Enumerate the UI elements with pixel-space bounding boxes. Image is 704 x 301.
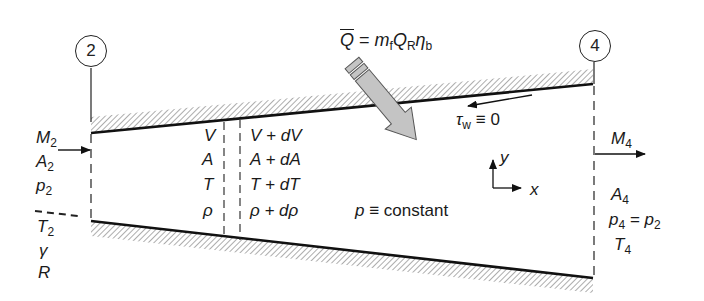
gas-constant: R — [38, 263, 50, 283]
cv-velocity: V — [204, 126, 215, 146]
inlet-props-separator — [35, 211, 78, 216]
outlet-area: A4 — [611, 185, 629, 210]
bottom-wall — [91, 221, 593, 278]
outlet-pressure: p4 = p2 — [609, 210, 661, 235]
station-2-marker: 2 — [75, 35, 107, 67]
pressure-constant-note: p ≡ constant — [355, 201, 448, 221]
inlet-mach: M2 — [36, 128, 57, 153]
station-4-label: 4 — [590, 36, 599, 56]
heat-rate-symbol: Q — [340, 30, 354, 50]
y-axis-label: y — [500, 148, 509, 168]
specific-heat-ratio: γ — [39, 241, 48, 261]
cv-area-plus: A + dA — [250, 150, 301, 170]
wall-shear-label: τw ≡ 0 — [456, 110, 500, 135]
station-2-label: 2 — [86, 41, 95, 61]
bottom-wall-hatching — [91, 221, 593, 293]
cv-velocity-plus: V + dV — [250, 126, 302, 146]
heat-addition-equation: Q = mfQRηb — [340, 30, 432, 56]
inlet-area: A2 — [36, 152, 54, 177]
cv-area: A — [202, 150, 213, 170]
cv-temperature-plus: T + dT — [250, 175, 300, 195]
cv-density-plus: ρ + dρ — [250, 201, 298, 221]
station-4-marker: 4 — [579, 30, 611, 62]
outlet-temperature: T4 — [614, 235, 631, 260]
inlet-temperature: T2 — [37, 217, 54, 242]
top-wall — [91, 84, 593, 133]
outlet-mach: M4 — [611, 129, 632, 154]
cv-temperature: T — [203, 175, 213, 195]
fuel-mass-flow-symbol: m — [375, 30, 390, 50]
inlet-pressure: p2 — [36, 176, 52, 201]
x-axis-label: x — [530, 180, 539, 200]
wall-shear-arrow — [468, 95, 532, 106]
top-wall-hatching — [91, 69, 593, 133]
cv-density: ρ — [203, 201, 213, 221]
